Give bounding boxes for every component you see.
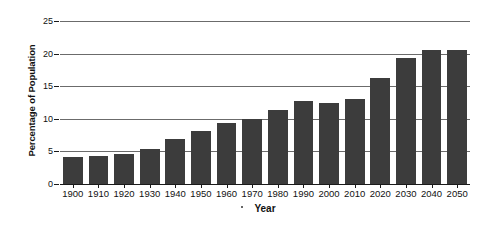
bar-2030 [396, 58, 416, 184]
y-axis-title-label: Percentage of Population [26, 44, 37, 156]
y-tick-label-10: 10 [43, 114, 53, 124]
bar-1980 [268, 110, 288, 184]
x-tick-label-1900: 1900 [62, 188, 83, 199]
y-tick-mark-15 [54, 86, 59, 87]
x-tick-label-2000: 2000 [318, 188, 339, 199]
x-tick-label-1920: 1920 [113, 188, 134, 199]
bar-1910 [89, 156, 109, 184]
x-tick-label-1950: 1950 [190, 188, 211, 199]
bar-1920 [114, 154, 134, 184]
x-tick-label-1960: 1960 [216, 188, 237, 199]
bar-2000 [319, 103, 339, 185]
bars [60, 21, 470, 184]
x-tick-label-1970: 1970 [242, 188, 263, 199]
y-tick-label-25: 25 [43, 16, 53, 26]
y-tick-label-20: 20 [43, 49, 53, 59]
y-tick-label-5: 5 [48, 146, 53, 156]
bar-1960 [217, 123, 237, 184]
x-tick-label-1940: 1940 [165, 188, 186, 199]
x-tick-label-2040: 2040 [421, 188, 442, 199]
bar-1950 [191, 131, 211, 184]
x-tick-label-1980: 1980 [267, 188, 288, 199]
gridline-0 [60, 184, 470, 185]
bar-1930 [140, 149, 160, 184]
bar-1900 [63, 157, 83, 184]
y-tick-mark-0 [54, 184, 59, 185]
x-tick-label-1990: 1990 [293, 188, 314, 199]
x-tick-label-1930: 1930 [139, 188, 160, 199]
y-tick-mark-10 [54, 119, 59, 120]
x-tick-label-1910: 1910 [88, 188, 109, 199]
bar-1940 [165, 139, 185, 184]
y-tick-mark-25 [54, 21, 59, 22]
x-tick-label-2020: 2020 [370, 188, 391, 199]
x-tick-label-2010: 2010 [344, 188, 365, 199]
y-tick-label-0: 0 [48, 179, 53, 189]
y-tick-label-15: 15 [43, 81, 53, 91]
y-tick-mark-5 [54, 151, 59, 152]
x-tick-label-2050: 2050 [447, 188, 468, 199]
bar-2050 [447, 50, 467, 184]
x-axis-title: Year [60, 203, 470, 214]
bar-chart-figure: Percentage of Population 0510152025 1900… [0, 0, 494, 228]
bar-2040 [422, 50, 442, 184]
x-axis-tick-labels: 1900191019201930194019501960197019801990… [60, 188, 470, 202]
y-axis-title: Percentage of Population [22, 14, 40, 186]
bar-1970 [242, 119, 262, 184]
bar-1990 [294, 101, 314, 184]
y-tick-mark-20 [54, 54, 59, 55]
plot-area: 0510152025 [60, 21, 470, 184]
x-tick-label-2030: 2030 [395, 188, 416, 199]
bar-2020 [370, 78, 390, 184]
bar-2010 [345, 99, 365, 184]
